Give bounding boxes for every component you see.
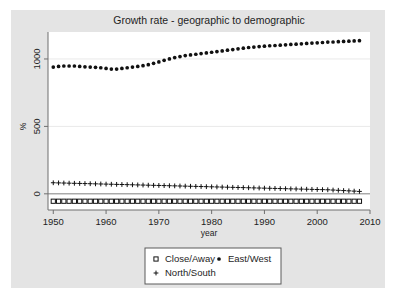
- marker-circle: [215, 50, 219, 54]
- marker-circle: [342, 40, 346, 44]
- chart-figure: 050010001950196019701980199020002010year…: [11, 10, 385, 288]
- chart-title: Growth rate - geographic to demographic: [113, 14, 304, 26]
- marker-circle: [315, 41, 319, 45]
- growth-rate-chart: 050010001950196019701980199020002010year…: [11, 10, 385, 288]
- marker-circle: [226, 48, 230, 52]
- marker-circle: [178, 55, 182, 59]
- marker-circle: [62, 64, 66, 68]
- marker-circle: [310, 41, 314, 45]
- marker-circle: [199, 52, 203, 56]
- marker-circle: [115, 67, 119, 71]
- marker-circle: [241, 46, 245, 50]
- marker-circle: [289, 43, 293, 47]
- marker-circle: [321, 41, 325, 45]
- y-axis-title: %: [18, 122, 28, 130]
- x-tick-label: 1950: [43, 216, 64, 227]
- marker-circle: [278, 43, 282, 47]
- marker-circle: [210, 50, 214, 54]
- marker-circle: [146, 63, 150, 67]
- legend-label: North/South: [165, 267, 216, 278]
- x-tick-label: 1970: [148, 216, 169, 227]
- marker-circle: [252, 45, 256, 49]
- marker-circle: [231, 48, 235, 52]
- marker-circle: [99, 66, 103, 70]
- marker-circle: [109, 67, 113, 71]
- marker-circle: [284, 43, 288, 47]
- marker-circle: [168, 57, 172, 61]
- marker-circle: [273, 44, 277, 48]
- marker-circle: [347, 39, 351, 43]
- x-axis-title: year: [201, 228, 218, 238]
- marker-circle: [268, 44, 272, 48]
- x-tick-label: 1990: [254, 216, 275, 227]
- legend-label: Close/Away: [165, 253, 215, 264]
- marker-circle: [194, 52, 198, 56]
- marker-circle: [141, 64, 145, 68]
- marker-circle: [263, 44, 267, 48]
- marker-circle: [294, 42, 298, 46]
- y-tick-label: 500: [31, 118, 42, 134]
- marker-circle: [305, 42, 309, 46]
- chart-legend: Close/AwayEast/WestNorth/South: [145, 248, 281, 284]
- marker-circle: [189, 53, 193, 57]
- marker-circle: [104, 67, 108, 71]
- marker-circle: [88, 65, 92, 69]
- x-tick-label: 2010: [359, 216, 380, 227]
- marker-circle: [331, 40, 335, 44]
- marker-circle: [220, 49, 224, 53]
- marker-circle: [157, 60, 161, 64]
- legend-label: East/West: [228, 253, 271, 264]
- y-tick-label: 1000: [31, 48, 42, 69]
- marker-circle: [136, 65, 140, 69]
- marker-circle: [57, 65, 61, 69]
- marker-circle: [120, 67, 124, 71]
- marker-circle: [358, 39, 362, 43]
- marker-circle: [183, 54, 187, 58]
- marker-circle: [236, 47, 240, 51]
- y-tick-label: 0: [31, 191, 42, 196]
- x-tick-label: 1980: [201, 216, 222, 227]
- marker-circle: [217, 257, 221, 261]
- marker-circle: [205, 51, 209, 55]
- marker-circle: [83, 65, 87, 69]
- marker-circle: [257, 45, 261, 49]
- marker-circle: [173, 56, 177, 60]
- marker-circle: [162, 58, 166, 62]
- marker-circle: [51, 65, 55, 69]
- marker-circle: [67, 64, 71, 68]
- marker-circle: [352, 39, 356, 43]
- marker-circle: [78, 65, 82, 69]
- x-tick-label: 2000: [307, 216, 328, 227]
- marker-circle: [247, 46, 251, 50]
- marker-circle: [326, 40, 330, 44]
- x-tick-label: 1960: [95, 216, 116, 227]
- marker-circle: [73, 64, 77, 68]
- marker-circle: [300, 42, 304, 46]
- marker-circle: [94, 65, 98, 69]
- marker-circle: [152, 61, 156, 65]
- marker-circle: [131, 65, 135, 69]
- marker-circle: [336, 40, 340, 44]
- marker-circle: [125, 66, 129, 70]
